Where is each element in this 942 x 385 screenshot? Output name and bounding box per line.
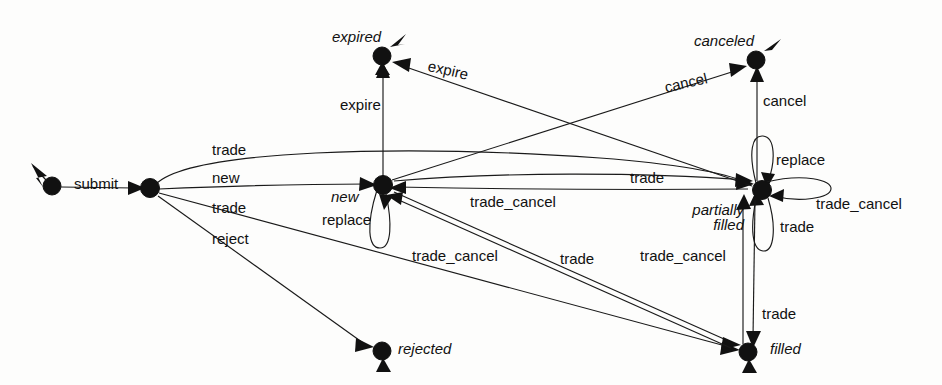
arrowhead-filled-bottom: [742, 359, 757, 373]
edge-label-replace-new: replace: [322, 212, 371, 228]
edge-label-trade-self: trade: [780, 219, 814, 235]
edge-submitted-to-filled: [159, 193, 733, 348]
edge-label-trade-mid: trade: [212, 200, 246, 216]
edge-label-reject: reject: [212, 231, 249, 247]
state-machine-diagram: submit trade new trade reject expire exp…: [0, 0, 942, 385]
node-start[interactable]: [43, 177, 61, 195]
edge-label-trade-diag: trade: [560, 251, 594, 267]
arrowhead-rejected-bottom: [376, 358, 391, 372]
state-label-filled: filled: [770, 341, 801, 357]
arrowhead-pf-expired: [392, 58, 411, 72]
node-new[interactable]: [374, 176, 393, 195]
state-label-rejected: rejected: [398, 341, 451, 357]
node-canceled[interactable]: [747, 51, 765, 69]
arrowhead-new-canceled: [729, 63, 747, 77]
edge-label-cancel-vertical: cancel: [763, 93, 806, 109]
edge-label-replace-pf: replace: [776, 152, 825, 168]
state-label-new: new: [331, 189, 359, 205]
edge-label-expire-vertical: expire: [340, 97, 381, 113]
state-label-expired: expired: [332, 29, 381, 45]
edge-label-trade-top: trade: [212, 142, 246, 158]
arrowhead-canceled-out: [764, 39, 781, 51]
node-submitted[interactable]: [141, 179, 160, 198]
edge-label-submit: submit: [74, 176, 118, 192]
edge-pf-to-new-trade-cancel: [396, 187, 748, 189]
edge-label-trade-new-pf: trade: [630, 170, 664, 186]
edge-label-trade-cancel-diag: trade_cancel: [412, 248, 498, 264]
edge-label-trade-vert: trade: [762, 306, 796, 322]
arrowhead-expired-out: [390, 34, 406, 47]
node-filled[interactable]: [739, 343, 757, 361]
state-label-partially-filled-line1: partially: [682, 202, 744, 217]
edge-new-to-pf-trade: [394, 174, 746, 181]
edge-filled-to-new-trade-cancel: [392, 197, 731, 348]
state-label-canceled: canceled: [694, 33, 754, 49]
node-rejected[interactable]: [373, 342, 391, 360]
edge-label-trade-cancel-self: trade_cancel: [816, 196, 902, 212]
arrowhead-rejected: [355, 338, 374, 352]
node-partially-filled[interactable]: [753, 181, 772, 200]
state-label-partially-filled-line2: filled: [682, 217, 744, 232]
edge-pf-self-trade: [753, 198, 774, 251]
edge-label-trade-cancel-vert: trade_cancel: [640, 248, 726, 264]
edge-label-new: new: [212, 170, 240, 186]
edge-label-trade-cancel-pf-new: trade_cancel: [470, 194, 556, 210]
